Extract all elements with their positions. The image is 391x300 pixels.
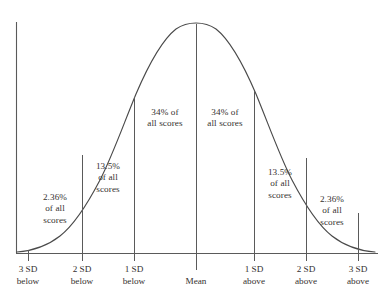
region-percent: 2.36% [320,194,344,204]
axis-label-sd1-below: 1 SD below [123,264,145,287]
distribution-plot [0,0,391,300]
region-line2: of all [270,178,290,188]
axis-label-line2: below [123,276,145,288]
region-line2: of all [322,205,342,215]
region-percent: 34% of [211,107,238,117]
axis-label-sd3-below: 3 SD below [17,264,39,287]
axis-label-sd2-below: 2 SD below [71,264,93,287]
region-line3: scores [268,190,292,200]
region-line3: scores [320,217,344,227]
region-line2: of all [45,203,65,213]
axis-label-line2: above [347,276,369,288]
region-line2: of all [98,172,118,182]
axis-label-sd2-above: 2 SD above [295,264,317,287]
axis-label-line1: 1 SD [243,264,265,276]
axis-label-sd3-above: 3 SD above [347,264,369,287]
region-percent: 13.5% [268,167,292,177]
region-percent: 13.5% [96,161,120,171]
axis-label-line2: below [17,276,39,288]
region-label-plus2-to-plus3: 2.36% of all scores [300,194,364,228]
axis-label-line1: 3 SD [347,264,369,276]
region-label-minus3-to-minus2: 2.36% of all scores [23,192,87,226]
axis-label-line1: 2 SD [71,264,93,276]
region-label-mean-to-plus1: 34% of all scores [193,107,257,130]
region-label-minus2-to-minus1: 13.5% of all scores [76,161,140,195]
region-line2: all scores [207,118,242,128]
axis-label-sd1-above: 1 SD above [243,264,265,287]
region-percent: 2.36% [43,192,67,202]
region-label-minus1-to-mean: 34% of all scores [133,107,197,130]
axis-label-line2: below [71,276,93,288]
axis-label-line2: above [295,276,317,288]
axis-label-line1: Mean [186,276,207,288]
region-line3: scores [96,184,120,194]
region-line2: all scores [147,118,182,128]
axis-label-line1: 3 SD [17,264,39,276]
axis-label-line1: 2 SD [295,264,317,276]
region-line3: scores [43,215,67,225]
normal-distribution-figure: 2.36% of all scores 13.5% of all scores … [0,0,391,300]
axis-label-mean: Mean [186,276,207,288]
axis-label-line1: 1 SD [123,264,145,276]
axis-label-line2: above [243,276,265,288]
region-percent: 34% of [151,107,178,117]
